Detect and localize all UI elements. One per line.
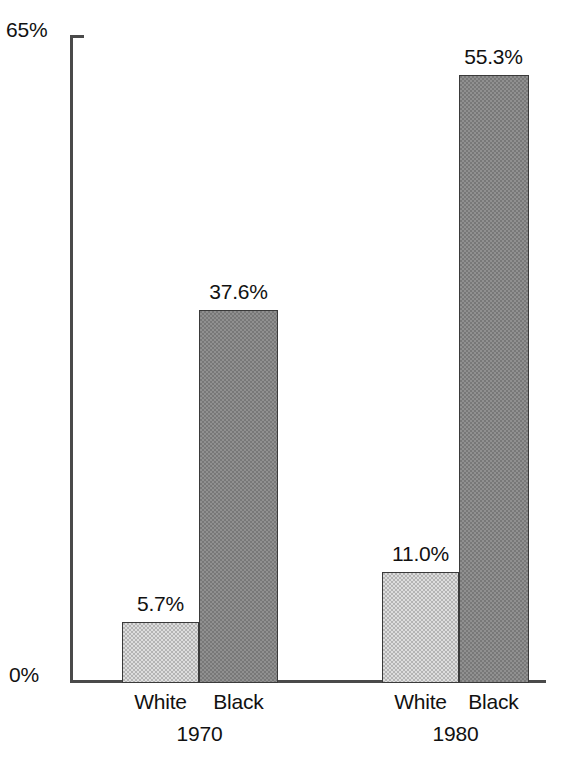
- bar-label-1970-white: 5.7%: [110, 592, 211, 616]
- y-axis-max-label: 65%: [6, 18, 47, 42]
- bar-1970-white[interactable]: [122, 622, 199, 683]
- bar-label-1980-white: 11.0%: [370, 542, 471, 566]
- bar-chart: 65% 0% 5.7% 37.6% 11.0% 55.3% White Blac…: [0, 0, 565, 759]
- bar-1980-black[interactable]: [459, 75, 529, 683]
- y-axis-line: [70, 35, 73, 683]
- bar-label-1980-black: 55.3%: [443, 45, 544, 69]
- tick-label-1970-black: Black: [188, 690, 289, 714]
- bar-label-1970-black: 37.6%: [188, 280, 289, 304]
- tick-label-1980-black: Black: [443, 690, 544, 714]
- y-axis-min-label: 0%: [9, 663, 39, 687]
- group-label-1980: 1980: [405, 722, 506, 746]
- bar-1970-black[interactable]: [199, 310, 278, 683]
- y-axis-tick-max: [70, 35, 84, 38]
- bar-1980-white[interactable]: [382, 572, 459, 683]
- group-label-1970: 1970: [149, 722, 250, 746]
